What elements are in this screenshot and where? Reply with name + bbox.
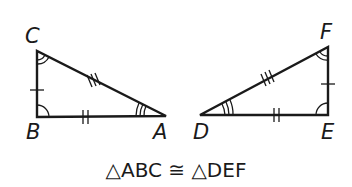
vertex-label-e: E xyxy=(321,120,335,144)
congruence-caption: △ABC ≅ △DEF xyxy=(106,158,247,182)
tick-ac xyxy=(87,73,100,87)
triangle-def: F D E xyxy=(193,20,335,144)
triangle-abc-outline xyxy=(37,51,166,117)
angle-e-arc xyxy=(316,103,328,115)
vertex-label-d: D xyxy=(193,120,209,144)
vertex-label-c: C xyxy=(25,24,40,48)
triangle-abc: C B A xyxy=(25,24,167,144)
vertex-label-a: A xyxy=(151,120,167,144)
angle-b-arc xyxy=(37,105,49,117)
tick-df xyxy=(261,70,274,86)
congruent-triangles-diagram: C B A F D E xyxy=(0,0,352,187)
vertex-label-b: B xyxy=(26,120,40,144)
vertex-label-f: F xyxy=(320,20,333,44)
